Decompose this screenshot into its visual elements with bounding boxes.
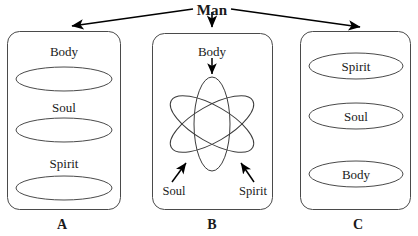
diagram-root: Man Body Soul Spirit A Body Soul Spirit …	[0, 0, 418, 236]
panel-b-spirit-arrow	[241, 163, 254, 182]
panel-b-label-body: Body	[198, 45, 226, 58]
panel-a-label-soul: Soul	[52, 101, 76, 114]
man-arrow-left	[72, 9, 193, 26]
panel-a-ellipse-body	[16, 67, 112, 91]
panel-a-letter: A	[57, 218, 67, 232]
panel-a-label-body: Body	[50, 45, 78, 58]
panel-c-letter: C	[353, 218, 363, 232]
panel-a-label-spirit: Spirit	[50, 157, 79, 170]
panel-a-ellipse-spirit	[16, 176, 112, 200]
man-arrow-right	[231, 9, 360, 27]
panel-b-label-spirit: Spirit	[239, 185, 267, 198]
panel-a-ellipse-soul	[16, 118, 112, 142]
panel-c-label-spirit: Spirit	[342, 60, 371, 73]
panel-c-label-soul: Soul	[344, 110, 368, 123]
panel-b-soul-arrow	[172, 163, 186, 182]
panel-b-orbit-vertical	[194, 77, 230, 171]
panel-b-label-soul: Soul	[163, 185, 186, 198]
panel-b-letter: B	[207, 218, 216, 232]
panel-c-label-body: Body	[342, 168, 370, 181]
diagram-title: Man	[197, 3, 228, 18]
